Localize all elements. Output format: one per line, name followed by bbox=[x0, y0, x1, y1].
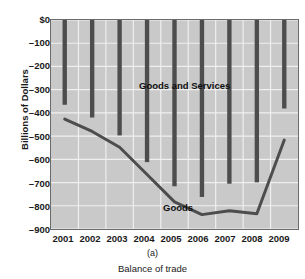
y-tick-label-0: $0 bbox=[4, 14, 50, 25]
bar-2009 bbox=[282, 20, 286, 108]
annotation-goods-and-services: Goods and Services bbox=[139, 80, 230, 91]
bar-2003 bbox=[117, 20, 121, 135]
bar-2002 bbox=[90, 20, 94, 118]
y-tick-label-8: –800 bbox=[4, 201, 50, 212]
y-tick-label-1: –100 bbox=[4, 37, 50, 48]
x-tick-label-2009: 2009 bbox=[259, 233, 299, 244]
y-tick-label-3: –300 bbox=[4, 84, 50, 95]
balance-of-trade-figure: Billions of Dollars $0 –100 –200 –300 –4… bbox=[0, 0, 305, 279]
annotation-goods: Goods bbox=[163, 202, 193, 213]
bar-2005 bbox=[172, 20, 176, 186]
y-tick-label-4: –400 bbox=[4, 107, 50, 118]
figure-caption: Balance of trade bbox=[0, 263, 305, 274]
panel-letter: (a) bbox=[0, 248, 305, 258]
plot-canvas bbox=[51, 20, 298, 229]
y-tick-label-5: –500 bbox=[4, 131, 50, 142]
y-tick-label-7: –700 bbox=[4, 178, 50, 189]
bar-2008 bbox=[255, 20, 259, 182]
bar-2004 bbox=[145, 20, 149, 162]
y-tick-label-2: –200 bbox=[4, 60, 50, 71]
y-tick-label-6: –600 bbox=[4, 154, 50, 165]
bar-series-goods-and-services bbox=[63, 20, 287, 197]
bar-2006 bbox=[200, 20, 204, 197]
bar-2007 bbox=[227, 20, 231, 184]
bar-2001 bbox=[63, 20, 67, 105]
plot-area: Goods and Services Goods bbox=[50, 19, 299, 230]
